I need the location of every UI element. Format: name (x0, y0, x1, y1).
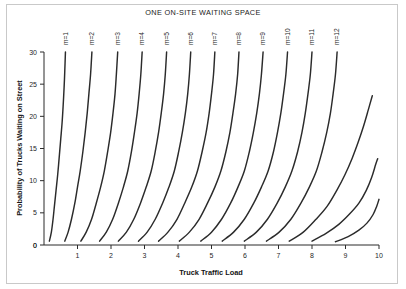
data-curve (100, 52, 143, 241)
y-tick-label: 5 (33, 209, 37, 216)
y-tick-label: 30 (29, 49, 37, 56)
curve-label: m=4 (138, 32, 145, 45)
x-tick-label: 10 (375, 252, 383, 259)
data-curve (49, 52, 65, 241)
y-tick-label: 10 (29, 177, 37, 184)
x-axis-ticks: 012345678910 (33, 242, 383, 259)
y-tick-label: 25 (29, 81, 37, 88)
x-tick-label: 0 (33, 242, 37, 249)
curve-label: m=11 (308, 28, 315, 45)
data-curve (266, 52, 337, 241)
x-tick-label: 4 (176, 252, 180, 259)
chart-figure: ONE ON-SITE WAITING SPACE 051015202530 0… (0, 0, 406, 289)
y-axis-title: Probability of Trucks Waiting on Street (15, 80, 24, 216)
y-axis-ticks: 051015202530 (29, 49, 44, 249)
plot-area: 051015202530 012345678910 m=1m=2m=3m=4m=… (0, 0, 406, 289)
data-curve (312, 159, 378, 241)
curve-label: m=7 (211, 32, 218, 45)
x-tick-label: 2 (109, 252, 113, 259)
x-tick-label: 6 (243, 252, 247, 259)
data-curve (65, 52, 92, 241)
data-curve (118, 52, 166, 241)
x-tick-label: 8 (310, 252, 314, 259)
x-tick-label: 5 (210, 252, 214, 259)
x-axis-title: Truck Traffic Load (179, 268, 243, 277)
curve-label: m=5 (163, 32, 170, 45)
data-curve (244, 52, 312, 241)
curve-group (49, 52, 379, 242)
curve-label: m=9 (259, 32, 266, 45)
curve-label: m=1 (62, 32, 69, 45)
data-curve (222, 52, 287, 241)
curve-label: m=12 (333, 28, 340, 45)
curve-label: m=8 (235, 32, 242, 45)
data-curve (201, 52, 263, 241)
curve-label: m=10 (284, 28, 291, 45)
data-curve (159, 52, 215, 241)
x-tick-label: 1 (76, 252, 80, 259)
curve-label-group: m=1m=2m=3m=4m=5m=6m=7m=8m=9m=10m=11m=12 (62, 28, 341, 45)
curve-label: m=3 (114, 32, 121, 45)
x-tick-label: 3 (143, 252, 147, 259)
curve-label: m=6 (187, 32, 194, 45)
y-tick-label: 20 (29, 113, 37, 120)
y-tick-label: 15 (29, 145, 37, 152)
data-curve (289, 96, 372, 241)
curve-label: m=2 (88, 32, 95, 45)
x-tick-label: 9 (344, 252, 348, 259)
x-tick-label: 7 (277, 252, 281, 259)
data-curve (81, 52, 118, 241)
